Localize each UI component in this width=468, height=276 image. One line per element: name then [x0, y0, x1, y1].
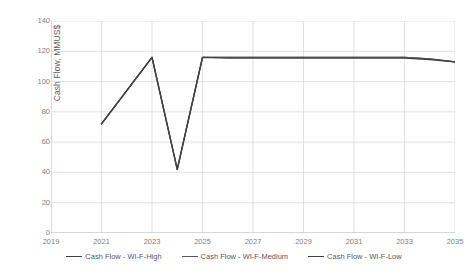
legend-item[interactable]: Cash Flow - WI-F-High — [66, 252, 161, 261]
x-tick-label: 2021 — [82, 237, 122, 246]
legend-label: Cash Flow - WI-F-Medium — [201, 252, 289, 261]
x-tick-label: 2019 — [31, 237, 71, 246]
x-tick-label: 2023 — [132, 237, 172, 246]
chart-legend: Cash Flow - WI-F-HighCash Flow - WI-F-Me… — [0, 252, 468, 261]
legend-label: Cash Flow - WI-F-High — [85, 252, 161, 261]
x-tick-label: 2033 — [385, 237, 425, 246]
legend-swatch-icon — [182, 256, 198, 258]
legend-item[interactable]: Cash Flow - WI-F-Medium — [182, 252, 289, 261]
x-tick-label: 2027 — [233, 237, 273, 246]
x-axis-tick-labels: 201920212023202520272029203120332035 — [0, 0, 468, 276]
x-tick-label: 2029 — [284, 237, 324, 246]
x-tick-label: 2035 — [435, 237, 468, 246]
x-tick-label: 2031 — [334, 237, 374, 246]
legend-swatch-icon — [66, 256, 82, 258]
legend-item[interactable]: Cash Flow - WI-F-Low — [308, 252, 402, 261]
legend-swatch-icon — [308, 256, 324, 258]
cash-flow-line-chart: Cash Flow, MMUS$ 020406080100120140 2019… — [0, 0, 468, 276]
legend-label: Cash Flow - WI-F-Low — [327, 252, 402, 261]
x-tick-label: 2025 — [183, 237, 223, 246]
